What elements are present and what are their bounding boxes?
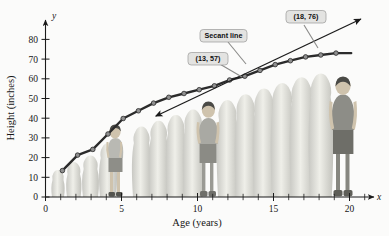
y-axis-variable-label: y (51, 11, 57, 21)
x-axis-title: Age (years) (172, 217, 222, 229)
y-tick-label: 30 (29, 133, 39, 143)
growth-chart-figure: 0 10 20 30 40 50 60 70 80 y Height (inch… (0, 0, 389, 236)
featured-person-adult (329, 77, 357, 197)
callout-point-b-label: (18, 76) (294, 12, 319, 21)
x-axis: 0 5 10 15 20 x Age (years) (43, 192, 382, 229)
y-tick-label: 0 (33, 192, 38, 202)
chart-canvas: 0 10 20 30 40 50 60 70 80 y Height (inch… (0, 0, 389, 236)
y-tick-label: 70 (29, 55, 39, 65)
callout-point-a-label: (13, 57) (196, 54, 221, 63)
x-tick-label: 10 (193, 204, 203, 214)
silhouette-figure (82, 156, 99, 198)
y-tick-label: 40 (29, 114, 39, 124)
x-axis-variable-label: x (376, 192, 382, 202)
silhouette-figure (51, 170, 64, 197)
callout-point-b[interactable]: (18, 76) (286, 11, 326, 49)
silhouette-figure (132, 127, 151, 198)
y-tick-label: 10 (29, 173, 39, 183)
silhouette-figure (66, 162, 81, 197)
y-tick-label: 60 (29, 74, 39, 84)
y-axis: 0 10 20 30 40 50 60 70 80 y Height (inch… (5, 11, 57, 202)
x-tick-label: 5 (119, 204, 124, 214)
x-tick-label: 20 (345, 204, 355, 214)
silhouette-figure (309, 74, 334, 198)
callout-secant-label: Secant line (205, 31, 243, 40)
silhouette-figure (149, 121, 169, 197)
x-tick-label: 0 (43, 204, 48, 214)
x-tick-label: 15 (269, 204, 279, 214)
y-axis-title: Height (inches) (5, 75, 17, 141)
callout-point-a[interactable]: (13, 57) (188, 53, 242, 78)
y-tick-label: 20 (29, 153, 39, 163)
y-tick-label: 50 (29, 94, 39, 104)
y-tick-label: 80 (29, 35, 39, 45)
